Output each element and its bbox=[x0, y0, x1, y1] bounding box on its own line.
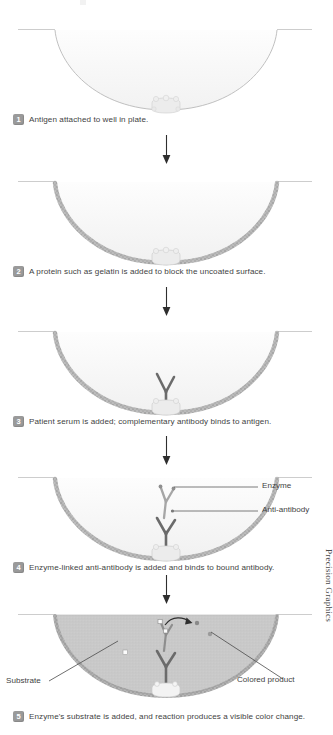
antigen-1 bbox=[152, 95, 180, 113]
step-badge-5: 5 bbox=[13, 711, 24, 722]
well-illustration-1 bbox=[0, 18, 333, 118]
callout-label-colored-product: Colored product bbox=[237, 675, 295, 685]
flow-arrow-3 bbox=[0, 434, 333, 466]
caption-step-3: 3 Patient serum is added; complementary … bbox=[13, 416, 271, 427]
step-panel-2: 2 A protein such as gelatin is added to … bbox=[0, 170, 333, 274]
step-badge-2: 2 bbox=[13, 266, 24, 277]
caption-step-2: 2 A protein such as gelatin is added to … bbox=[13, 266, 266, 277]
well-illustration-3 bbox=[0, 320, 333, 420]
step-panel-4: Enzyme Anti-antibody 4 Enzyme-linked ant… bbox=[0, 466, 333, 570]
step-caption-text-2: A protein such as gelatin is added to bl… bbox=[29, 266, 266, 277]
well-illustration-2 bbox=[0, 170, 333, 270]
step-panel-1: 1 Antigen attached to well in plate. bbox=[0, 18, 333, 122]
step-badge-1: 1 bbox=[13, 114, 24, 125]
step-badge-4: 4 bbox=[13, 562, 24, 573]
caption-step-5: 5 Enzyme's substrate is added, and react… bbox=[13, 711, 305, 722]
flow-arrow-1 bbox=[0, 133, 333, 165]
caption-step-1: 1 Antigen attached to well in plate. bbox=[13, 114, 148, 125]
colored-product-dot-1 bbox=[195, 621, 199, 625]
step-panel-3: 3 Patient serum is added; complementary … bbox=[0, 320, 333, 424]
callout-label-anti-antibody: Anti-antibody bbox=[262, 505, 309, 515]
antigen-3 bbox=[152, 398, 180, 415]
flow-arrow-2 bbox=[0, 285, 333, 317]
antigen-5 bbox=[152, 682, 180, 697]
antigen-4 bbox=[152, 544, 180, 561]
caption-step-4: 4 Enzyme-linked anti-antibody is added a… bbox=[13, 562, 274, 573]
step-caption-text-5: Enzyme's substrate is added, and reactio… bbox=[29, 711, 305, 722]
anti-antibody-marker bbox=[171, 509, 174, 512]
callout-label-enzyme: Enzyme bbox=[262, 481, 291, 491]
substrate-molecule-bound bbox=[158, 620, 162, 624]
step-caption-text-1: Antigen attached to well in plate. bbox=[29, 114, 148, 125]
elisa-diagram: 1 Antigen attached to well in plate. bbox=[0, 0, 333, 735]
step-caption-text-3: Patient serum is added; complementary an… bbox=[29, 416, 271, 427]
step-panel-5: Substrate Colored product 5 Enzyme's sub… bbox=[0, 603, 333, 717]
step-caption-text-4: Enzyme-linked anti-antibody is added and… bbox=[29, 562, 274, 573]
substrate-molecule-free bbox=[123, 650, 128, 655]
illustration-credit: Precision Graphics bbox=[324, 549, 333, 622]
well-illustration-5 bbox=[0, 603, 333, 713]
antigen-2 bbox=[152, 247, 180, 265]
callout-label-substrate: Substrate bbox=[6, 676, 41, 686]
flow-arrow-4 bbox=[0, 573, 333, 605]
scan-artifact bbox=[80, 0, 86, 5]
enzyme-marker-left bbox=[159, 485, 163, 489]
substrate-molecule-site bbox=[164, 629, 168, 633]
step-badge-3: 3 bbox=[13, 416, 24, 427]
